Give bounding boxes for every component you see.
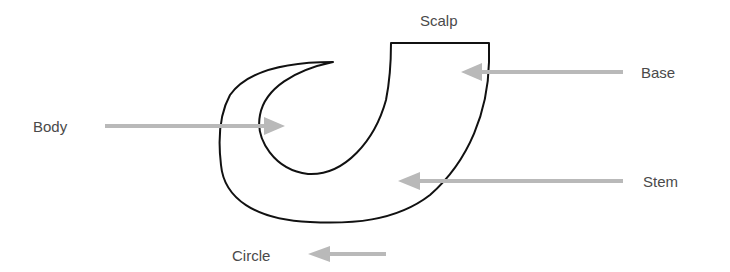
hook-outline bbox=[220, 43, 489, 223]
label-body: Body bbox=[33, 118, 68, 135]
label-circle: Circle bbox=[232, 247, 270, 264]
base-arrow bbox=[461, 63, 623, 81]
circle-arrow bbox=[308, 246, 386, 262]
label-base: Base bbox=[641, 64, 675, 81]
body-arrow bbox=[105, 117, 285, 135]
hook-parts-diagram: Scalp Base Body Stem Circle bbox=[0, 0, 730, 272]
label-scalp: Scalp bbox=[420, 12, 458, 29]
stem-arrow bbox=[398, 172, 623, 190]
label-stem: Stem bbox=[643, 173, 678, 190]
